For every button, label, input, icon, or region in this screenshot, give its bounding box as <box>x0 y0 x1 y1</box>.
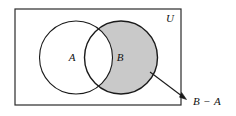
venn-diagram-figure: U A B B − A <box>0 0 236 116</box>
universal-set-label: U <box>166 12 175 24</box>
set-b-label: B <box>117 51 124 63</box>
callout-label-b-minus-a: B − A <box>193 95 221 107</box>
set-a-label: A <box>68 51 76 63</box>
venn-diagram-canvas: U A B B − A <box>0 0 236 116</box>
